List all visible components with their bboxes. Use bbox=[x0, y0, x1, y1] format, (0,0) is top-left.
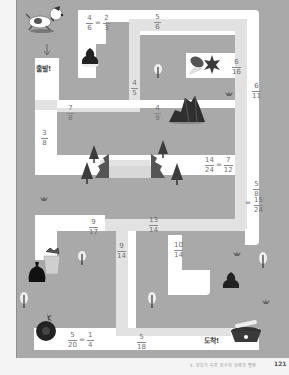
numerator: 5 bbox=[70, 331, 74, 339]
denominator: 14 bbox=[117, 252, 126, 260]
denominator: 9 bbox=[155, 114, 159, 122]
numerator: 5 bbox=[155, 13, 159, 21]
numerator: 9 bbox=[119, 242, 123, 250]
tree-icon bbox=[148, 292, 149, 293]
path-segment bbox=[168, 270, 210, 295]
path-segment-gray bbox=[235, 19, 247, 229]
end-label: 도착! bbox=[204, 335, 219, 345]
numerator: 13 bbox=[149, 216, 158, 224]
arrow-down-icon bbox=[44, 44, 50, 56]
pine-tree-icon bbox=[80, 162, 94, 184]
numerator: 10 bbox=[174, 241, 183, 249]
fraction-equation-f1: 46 = 23 bbox=[86, 14, 110, 32]
tree-icon bbox=[78, 251, 86, 265]
fraction-f6: 78 bbox=[67, 104, 74, 122]
denominator: 24 bbox=[254, 206, 263, 214]
denominator: 20 bbox=[68, 341, 77, 349]
denominator: 4 bbox=[88, 341, 92, 349]
star-icon bbox=[225, 91, 233, 98]
numerator: 4 bbox=[87, 14, 91, 22]
numerator: 2 bbox=[104, 14, 108, 22]
fraction: 23 bbox=[103, 14, 110, 32]
fraction-f8: 38 bbox=[41, 129, 48, 147]
pine-tree-icon bbox=[170, 163, 184, 185]
garbage-bag-icon bbox=[27, 262, 47, 284]
poop-icon bbox=[221, 268, 241, 292]
fraction-f2: 56 bbox=[154, 13, 161, 31]
footer-text: 5. 분모가 다른 분수의 덧셈과 뺄셈 bbox=[190, 362, 256, 368]
equals-sign: = bbox=[216, 161, 222, 169]
numerator: 6 bbox=[234, 58, 238, 66]
numerator: 7 bbox=[68, 104, 72, 112]
star-icon bbox=[262, 299, 270, 306]
fraction: 14 bbox=[87, 331, 94, 349]
numerator: 5 bbox=[254, 180, 258, 188]
numerator: 4 bbox=[132, 79, 136, 87]
star-icon bbox=[233, 251, 241, 258]
fraction: 46 bbox=[86, 14, 93, 32]
fraction-f3: 616 bbox=[232, 58, 241, 76]
fraction-f16: 518 bbox=[137, 333, 146, 351]
path-segment-gray bbox=[116, 219, 128, 334]
denominator: 16 bbox=[232, 68, 241, 76]
denominator: 8 bbox=[42, 139, 46, 147]
equals-sign: = bbox=[95, 19, 101, 27]
page-number: 121 bbox=[274, 360, 287, 367]
dog-bowl-icon bbox=[229, 316, 263, 344]
star-icon bbox=[40, 196, 48, 203]
worksheet-page: 46 = 23 56 616 45 611 78 49 38 1424 = 71… bbox=[0, 0, 289, 375]
numerator: 7 bbox=[226, 156, 230, 164]
fraction-f11: 917 bbox=[89, 218, 98, 236]
leaves-icon bbox=[187, 53, 225, 75]
fraction-equation-f15: 520 = 14 bbox=[68, 331, 94, 349]
fraction-f13: 914 bbox=[117, 242, 126, 260]
numerator: 6 bbox=[254, 82, 258, 90]
fraction-f10b: 1524 bbox=[254, 196, 263, 214]
poop-icon bbox=[80, 44, 100, 68]
denominator: 6 bbox=[155, 23, 159, 31]
bomb-icon bbox=[35, 312, 57, 342]
rock-icon bbox=[167, 94, 207, 124]
numerator: 9 bbox=[91, 218, 95, 226]
denominator: 6 bbox=[87, 24, 91, 32]
denominator: 14 bbox=[149, 226, 158, 234]
equals-sign: = bbox=[79, 336, 85, 344]
numerator: 1 bbox=[88, 331, 92, 339]
denominator: 5 bbox=[132, 89, 136, 97]
tree-icon bbox=[20, 292, 28, 308]
path-segment bbox=[140, 31, 235, 35]
fraction: 520 bbox=[68, 331, 77, 349]
path-segment-gray bbox=[129, 19, 247, 31]
denominator: 18 bbox=[137, 343, 146, 351]
fraction: 712 bbox=[224, 156, 233, 174]
numerator: 14 bbox=[205, 156, 214, 164]
denominator: 24 bbox=[205, 166, 214, 174]
denominator: 14 bbox=[174, 251, 183, 259]
numerator: 15 bbox=[254, 196, 263, 204]
numerator: 4 bbox=[155, 104, 159, 112]
equals-sign: = bbox=[245, 199, 251, 207]
cliff-stream-icon bbox=[95, 150, 165, 180]
denominator: 17 bbox=[89, 228, 98, 236]
numerator: 3 bbox=[42, 129, 46, 137]
tree-icon bbox=[259, 252, 267, 268]
numerator: 5 bbox=[139, 333, 143, 341]
fraction-f14: 1014 bbox=[174, 241, 183, 259]
fraction: 1424 bbox=[205, 156, 214, 174]
path-segment bbox=[128, 231, 136, 334]
dog-icon bbox=[24, 4, 66, 34]
fraction-f5: 611 bbox=[252, 82, 261, 100]
fraction-f4: 45 bbox=[131, 79, 138, 97]
denominator: 12 bbox=[224, 166, 233, 174]
start-label: 출발! bbox=[36, 63, 51, 73]
fraction-f7: 49 bbox=[154, 104, 161, 122]
denominator: 3 bbox=[104, 24, 108, 32]
path-segment bbox=[57, 100, 235, 108]
tree-icon bbox=[154, 64, 162, 78]
denominator: 8 bbox=[68, 114, 72, 122]
fraction-f12: 1314 bbox=[149, 216, 158, 234]
fraction-equation-f9: 1424 = 712 bbox=[205, 156, 233, 174]
tree-icon bbox=[148, 292, 156, 308]
denominator: 11 bbox=[252, 92, 261, 100]
